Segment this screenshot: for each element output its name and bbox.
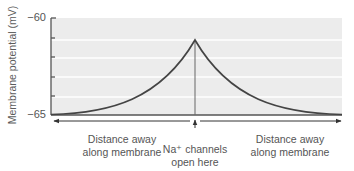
caption-right-line2: along membrane	[240, 146, 340, 159]
caption-center-line1: Na⁺ channels	[150, 143, 240, 156]
plot-area	[51, 18, 342, 115]
caption-center-line2: open here	[150, 156, 240, 169]
caption-center: Na⁺ channels open here	[150, 143, 240, 169]
caption-right-line1: Distance away	[240, 133, 340, 146]
caption-right: Distance away along membrane	[240, 133, 340, 159]
membrane-potential-chart: Membrane potential (mV) −60 −65	[0, 0, 354, 171]
